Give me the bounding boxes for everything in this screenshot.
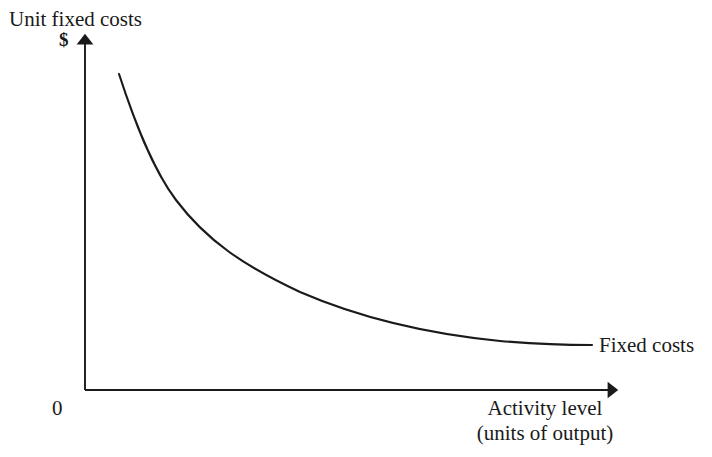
y-axis-label: $ [59,29,69,51]
x-axis-label: Activity level (units of output) [445,396,645,446]
origin-label: 0 [52,396,63,421]
chart-figure: Unit fixed costs $ 0 Fixed costs Activit… [0,0,712,457]
x-axis-label-line2: (units of output) [445,421,645,446]
series-annotation-fixed-costs: Fixed costs [599,333,694,358]
chart-title: Unit fixed costs [9,7,142,32]
x-axis-label-line1: Activity level [488,396,603,420]
chart-plot-area [0,0,712,457]
unit-fixed-cost-curve [119,74,592,345]
